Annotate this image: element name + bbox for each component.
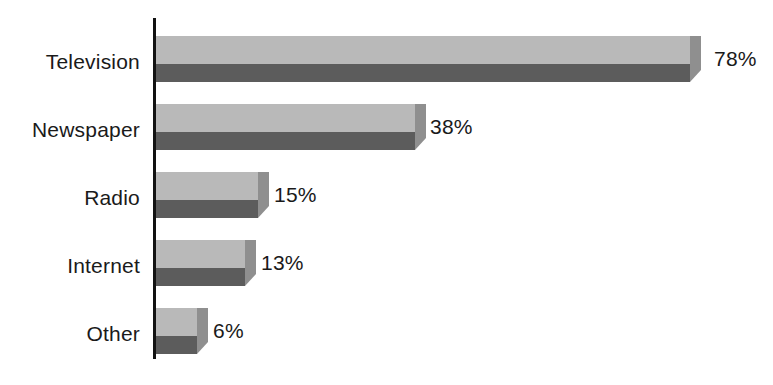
bar-chart: Television 78% Newspaper 38% Radio	[0, 0, 773, 385]
bar-newspaper[interactable]	[156, 104, 426, 150]
category-label-other: Other	[86, 322, 140, 346]
value-label-radio: 15%	[274, 183, 317, 207]
bar-radio[interactable]	[156, 172, 269, 218]
category-label-radio: Radio	[84, 186, 140, 210]
value-label-television: 78%	[714, 47, 757, 71]
value-label-newspaper: 38%	[430, 115, 473, 139]
bar-television[interactable]	[156, 36, 701, 82]
category-label-television: Television	[46, 50, 140, 74]
category-label-newspaper: Newspaper	[32, 118, 140, 142]
value-label-internet: 13%	[261, 251, 304, 275]
bar-internet[interactable]	[156, 240, 256, 286]
category-label-internet: Internet	[67, 254, 140, 278]
bar-other[interactable]	[156, 308, 208, 354]
value-label-other: 6%	[213, 319, 244, 343]
